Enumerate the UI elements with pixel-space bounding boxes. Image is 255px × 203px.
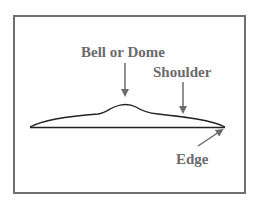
edge-label: Edge <box>176 152 209 167</box>
edge-arrow <box>198 130 222 146</box>
shoulder-label: Shoulder <box>153 65 211 80</box>
cymbal-diagram <box>0 0 255 203</box>
bell-label: Bell or Dome <box>81 45 165 60</box>
cymbal-profile <box>30 105 225 128</box>
